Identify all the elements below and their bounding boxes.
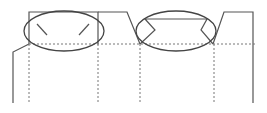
- left-slit: [37, 24, 47, 35]
- highlight-ellipse-right: [136, 11, 216, 51]
- highlight-ellipse-left: [24, 11, 104, 51]
- glue-flap-edge: [13, 44, 29, 103]
- tuck-flap-outline: [140, 19, 213, 44]
- right-slit: [79, 24, 89, 35]
- dust-flap-outline: [98, 12, 140, 44]
- box-dieline-diagram: [0, 0, 267, 113]
- right-flap-outline: [213, 12, 253, 103]
- left-top-flap-outline: [29, 12, 98, 44]
